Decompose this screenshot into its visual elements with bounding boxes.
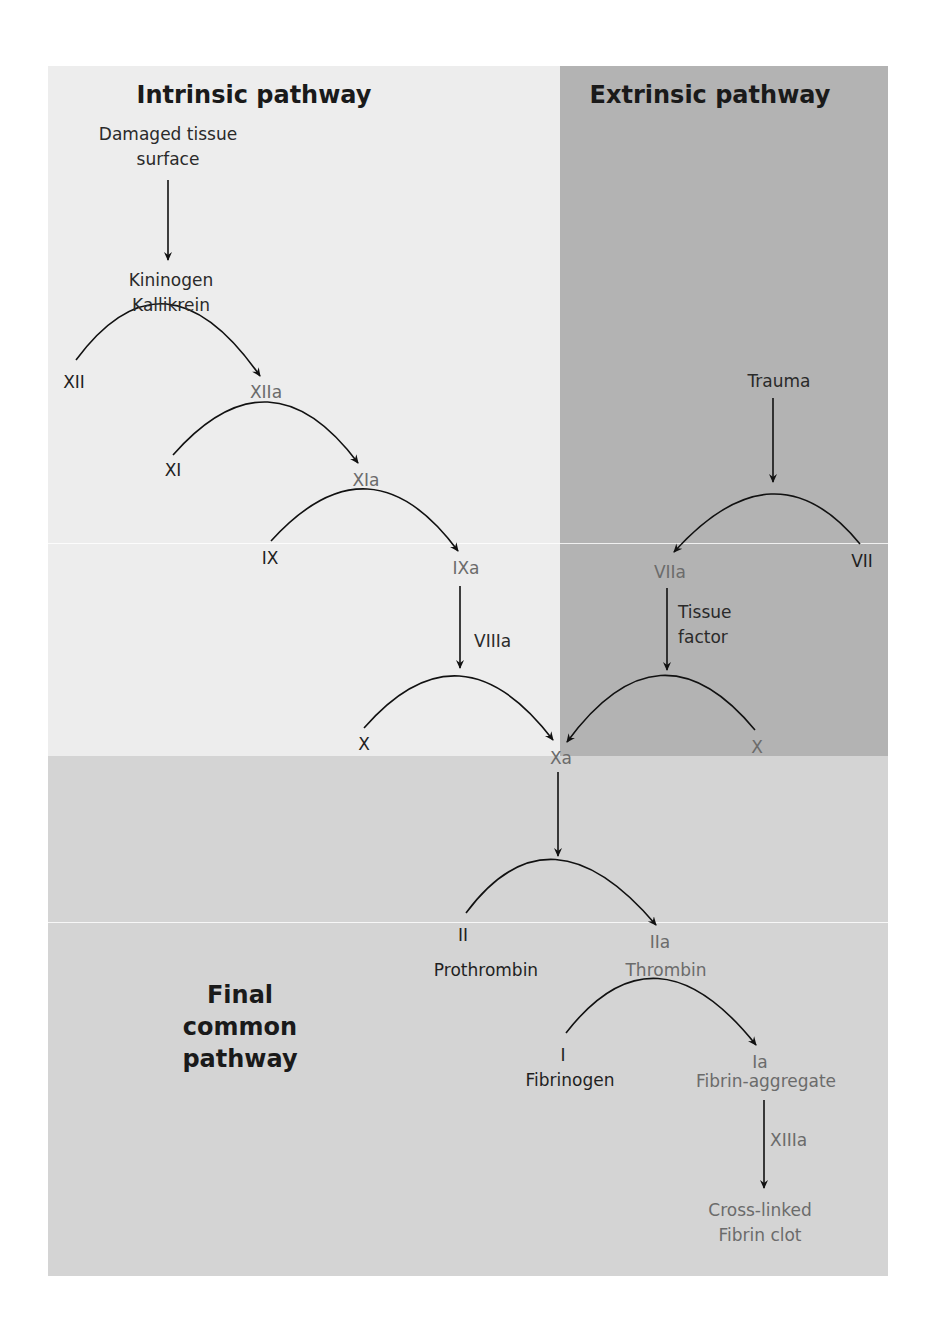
factor-ix: IX: [262, 546, 279, 570]
clot-label-2: Fibrin clot: [718, 1223, 801, 1247]
fibrin-aggregate-label: Fibrin-aggregate: [696, 1069, 836, 1093]
damaged-tissue-label: Damaged tissue: [99, 122, 237, 146]
arc-ix-to-ixa: [271, 489, 458, 551]
arc-x-to-xa-intrinsic: [364, 676, 553, 740]
fibrinogen-label: Fibrinogen: [526, 1068, 615, 1092]
factor-i: I: [560, 1043, 565, 1067]
arc-ii-to-iia: [466, 859, 656, 925]
common-title-line1: Final: [207, 980, 273, 1010]
factor-xiiia: XIIIa: [770, 1128, 807, 1152]
common-title-line3: pathway: [182, 1044, 297, 1074]
prothrombin-label: Prothrombin: [434, 958, 538, 982]
arc-vii-to-viia: [674, 494, 860, 552]
kininogen-label: Kininogen: [129, 268, 214, 292]
factor-xa: Xa: [550, 746, 572, 770]
common-title-line2: common: [183, 1012, 297, 1042]
tissue-factor-label-2: factor: [678, 625, 728, 649]
arc-xi-to-xia: [173, 402, 358, 463]
factor-viiia: VIIIa: [474, 629, 511, 653]
factor-iia: IIa: [650, 930, 670, 954]
factor-vii: VII: [851, 549, 873, 573]
factor-viia: VIIa: [654, 560, 686, 584]
arc-i-to-ia: [566, 978, 756, 1045]
factor-xiia: XIIa: [250, 380, 282, 404]
clot-label: Cross-linked: [708, 1198, 811, 1222]
extrinsic-title: Extrinsic pathway: [590, 80, 831, 110]
factor-xia: XIa: [352, 468, 379, 492]
factor-ii: II: [458, 923, 468, 947]
tissue-factor-label: Tissue: [678, 600, 732, 624]
factor-x-intrinsic: X: [358, 732, 370, 756]
intrinsic-title: Intrinsic pathway: [137, 80, 372, 110]
factor-x-extrinsic: X: [751, 735, 763, 759]
factor-xii: XII: [63, 370, 85, 394]
thrombin-label: Thrombin: [625, 958, 706, 982]
arc-x-to-xa-extrinsic: [567, 675, 755, 742]
damaged-tissue-label-2: surface: [137, 147, 200, 171]
kallikrein-label: Kallikrein: [132, 293, 210, 317]
factor-xi: XI: [165, 458, 182, 482]
trauma-label: Trauma: [747, 369, 810, 393]
factor-ixa: IXa: [452, 556, 479, 580]
